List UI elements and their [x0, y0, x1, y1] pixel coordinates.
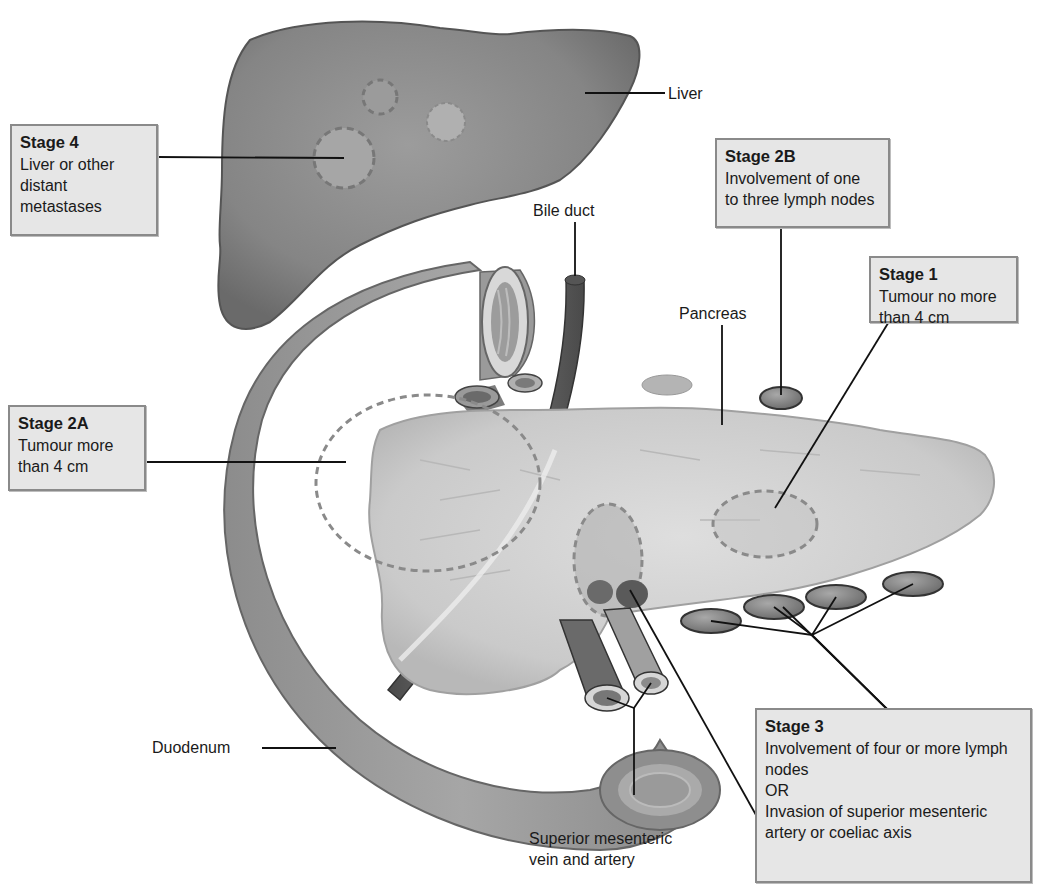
- portal-vessels: [455, 374, 542, 415]
- bile-duct-label: Bile duct: [533, 200, 594, 221]
- sm-vessels-label: Superior mesenteric vein and artery: [529, 828, 672, 870]
- stage-3-box: Stage 3 Involvement of four or more lymp…: [755, 708, 1032, 883]
- superior-mesenteric-vessels: [560, 608, 668, 711]
- stage-2b-title: Stage 2B: [725, 146, 880, 167]
- stage-2a-title: Stage 2A: [18, 413, 136, 434]
- stage-2b-line: Involvement of one: [725, 168, 880, 189]
- stage-1-box: Stage 1 Tumour no more than 4 cm: [869, 256, 1018, 323]
- stage-2b-line: to three lymph nodes: [725, 189, 880, 210]
- stage-3-title: Stage 3: [765, 716, 1022, 737]
- pancreas-shape: [369, 408, 994, 694]
- stage-2a-box: Stage 2A Tumour more than 4 cm: [8, 405, 146, 491]
- sm-vessels-line-2: vein and artery: [529, 849, 672, 870]
- stage-4-title: Stage 4: [20, 132, 148, 153]
- stage-2a-line: Tumour more: [18, 435, 136, 456]
- stage-4-line: metastases: [20, 196, 148, 217]
- stage-2a-line: than 4 cm: [18, 456, 136, 477]
- stage-2b-box: Stage 2B Involvement of one to three lym…: [715, 138, 890, 228]
- sm-vessels-line-1: Superior mesenteric: [529, 828, 672, 849]
- stage-4-line: distant: [20, 175, 148, 196]
- stage-3-line: Involvement of four or more lymph: [765, 738, 1022, 759]
- duodenum-label: Duodenum: [152, 737, 230, 758]
- stage-1-line: than 4 cm: [879, 307, 1008, 328]
- pancreas-label: Pancreas: [679, 303, 747, 324]
- stage-4-line: Liver or other: [20, 154, 148, 175]
- stage-3-line: nodes: [765, 759, 1022, 780]
- liver-label: Liver: [668, 83, 703, 104]
- stage-4-box: Stage 4 Liver or other distant metastase…: [10, 124, 158, 236]
- stage-3-line: artery or coeliac axis: [765, 822, 1022, 843]
- stage-1-title: Stage 1: [879, 264, 1008, 285]
- stage-3-line: OR: [765, 780, 1022, 801]
- stage-1-line: Tumour no more: [879, 286, 1008, 307]
- stage-3-line: Invasion of superior mesenteric: [765, 801, 1022, 822]
